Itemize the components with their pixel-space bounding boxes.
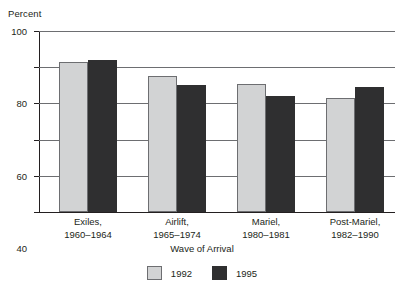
legend-label: 1995 <box>236 268 257 279</box>
bar-group <box>237 31 295 212</box>
legend-entry: 1995 <box>212 266 257 280</box>
bar-chart-figure: Percent 020406080100 Exiles,1960–1964Air… <box>0 0 404 294</box>
y-axis-tick: 20 <box>34 176 39 177</box>
bar-group <box>59 31 117 212</box>
y-axis-tick-label: 60 <box>16 170 27 181</box>
plot-area: 020406080100 <box>39 31 395 212</box>
dark-gray-swatch <box>212 266 227 280</box>
y-axis-tick-label: 80 <box>16 98 27 109</box>
legend-label: 1992 <box>171 268 192 279</box>
x-axis-title: Wave of Arrival <box>0 243 404 254</box>
bar-1995 <box>177 85 206 212</box>
bar-1992 <box>59 62 88 212</box>
bar-1992 <box>237 84 266 213</box>
bar-1992 <box>148 76 177 212</box>
light-gray-swatch <box>147 266 162 280</box>
y-axis-tick: 60 <box>34 103 39 104</box>
legend-entry: 1992 <box>147 266 192 280</box>
y-axis-line <box>39 31 40 213</box>
bar-1992 <box>326 98 355 212</box>
bar-1995 <box>266 96 295 212</box>
y-axis-tick: 100 <box>34 31 39 32</box>
y-axis-tick: 80 <box>34 67 39 68</box>
bar-group <box>148 31 206 212</box>
y-axis-tick: 40 <box>34 140 39 141</box>
bar-1995 <box>88 60 117 212</box>
x-axis-tick-label-line: Post-Mariel, <box>295 216 404 229</box>
y-axis-title: Percent <box>8 8 41 19</box>
bar-1995 <box>355 87 384 212</box>
bar-group <box>326 31 384 212</box>
y-axis-tick-label: 100 <box>11 26 27 37</box>
x-axis-tick-label: Post-Mariel,1982–1990 <box>295 216 404 241</box>
chart-legend: 19921995 <box>0 266 404 280</box>
y-axis-tick: 0 <box>34 212 39 213</box>
x-axis-tick-label-line: 1982–1990 <box>295 229 404 242</box>
x-axis-baseline <box>39 212 395 213</box>
